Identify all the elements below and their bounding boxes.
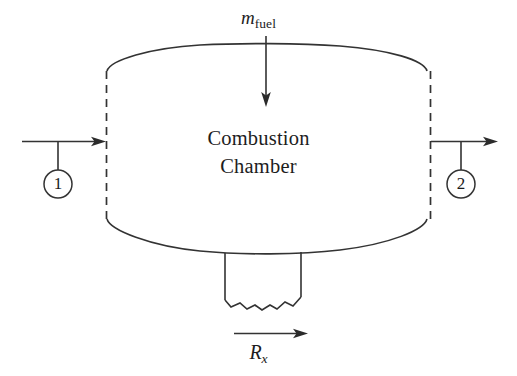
chamber-title: Combustion Chamber (0, 128, 517, 176)
station-2-label: 2 (446, 169, 476, 199)
chamber-bottom-arc (107, 219, 427, 254)
diagram-canvas (0, 0, 517, 376)
nozzle-break-line (225, 297, 301, 310)
combustion-chamber-diagram: mfuel Combustion Chamber 1 2 Rx (0, 0, 517, 376)
reaction-force-symbol: R (249, 341, 261, 363)
chamber-top-arc (107, 44, 427, 71)
reaction-force-label: Rx (0, 342, 517, 366)
fuel-symbol: m (241, 7, 255, 28)
chamber-title-line-1: Combustion (207, 127, 309, 149)
station-1-label: 1 (43, 169, 73, 199)
fuel-mass-flow-label: mfuel (0, 8, 517, 30)
reaction-force-subscript: x (262, 351, 268, 366)
chamber-title-line-2: Chamber (0, 156, 517, 177)
fuel-subscript: fuel (255, 16, 276, 31)
